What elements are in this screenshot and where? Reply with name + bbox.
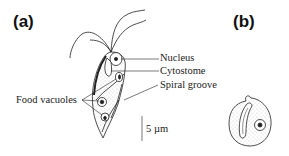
leader-spiral-groove xyxy=(124,85,158,100)
diagram-figure: (a) (b) xyxy=(0,0,289,156)
label-cytostome: Cytostome xyxy=(160,66,206,77)
label-scale-bar: 5 µm xyxy=(146,124,168,135)
label-food-vacuoles: Food vacuoles xyxy=(16,95,77,106)
cell-b xyxy=(229,96,271,146)
cell-a xyxy=(70,10,159,141)
food-vacuole-1 xyxy=(116,73,123,82)
label-nucleus: Nucleus xyxy=(160,53,194,64)
food-vacuole-2 xyxy=(98,98,107,107)
label-spiral-groove: Spiral groove xyxy=(160,80,217,91)
flagellum-3 xyxy=(111,20,146,52)
flagellum-2 xyxy=(111,10,145,52)
food-vacuole-3 xyxy=(101,113,109,121)
illustration xyxy=(0,0,289,156)
